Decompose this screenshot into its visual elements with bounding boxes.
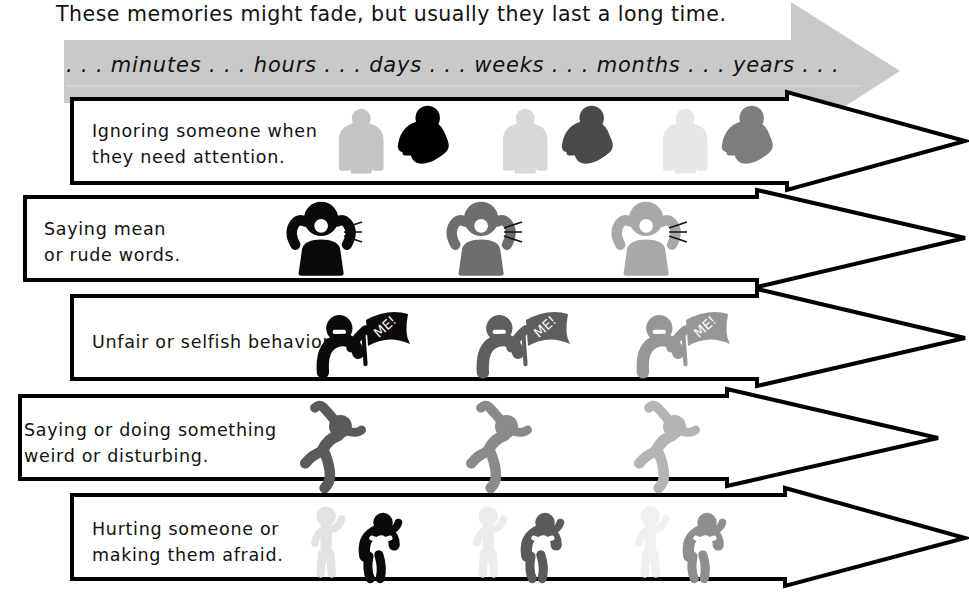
row-label-line1: Hurting someone or (92, 516, 284, 542)
me-flag: ME! (686, 312, 730, 346)
timeline-scale-label: . . . minutes . . . hours . . . days . .… (66, 53, 866, 83)
pictogram-group-row4 (305, 405, 695, 488)
row-label-line2: weird or disturbing. (24, 443, 277, 469)
me-flag: ME! (526, 312, 570, 346)
row-label-unfair: Unfair or selfish behavior. (92, 329, 335, 355)
row-label-line1: Saying or doing something (24, 417, 277, 443)
row-label-line1: Ignoring someone when (92, 118, 318, 144)
row-label-line1: Saying mean (44, 216, 181, 242)
row-label-weird: Saying or doing something weird or distu… (24, 417, 277, 469)
row-label-line1: Unfair or selfish behavior. (92, 329, 335, 355)
pictogram-group-row5 (315, 506, 722, 578)
me-flag: ME! (366, 312, 410, 346)
pictograms: ME! ME! ME! (0, 0, 969, 604)
row-label-line2: or rude words. (44, 242, 181, 268)
page-title: These memories might fade, but usually t… (56, 2, 836, 32)
row-label-line2: making them afraid. (92, 542, 284, 568)
row-label-line2: they need attention. (92, 144, 318, 170)
pictogram-group-row3: ME! ME! ME! (323, 312, 730, 372)
pictogram-group-row2 (292, 202, 687, 276)
row-label-hurting: Hurting someone or making them afraid. (92, 516, 284, 568)
diagram-canvas: ME! ME! ME! These me (0, 0, 969, 604)
row-label-ignoring: Ignoring someone when they need attentio… (92, 118, 318, 170)
pictogram-group-row1 (339, 106, 768, 174)
row-label-mean-words: Saying mean or rude words. (44, 216, 181, 268)
